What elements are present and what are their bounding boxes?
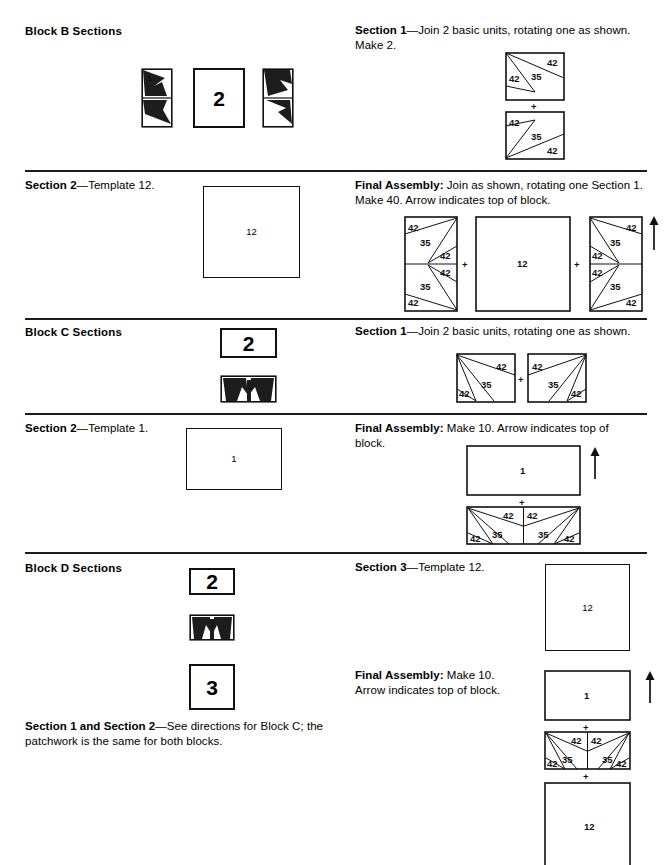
block-b-section1-text: Section 1—Join 2 basic units, rotating o… bbox=[355, 23, 645, 52]
block-d-swatch-pieced: 1 bbox=[189, 614, 235, 641]
block-c-swatch-pieced: 1 bbox=[220, 375, 277, 403]
svg-text:+: + bbox=[574, 259, 580, 270]
block-b-section1-diagram: 42 35 42 + 42 35 42 bbox=[505, 52, 577, 160]
template-number: 2 bbox=[243, 333, 255, 354]
block-b-final-text: Final Assembly: Join as shown, rotating … bbox=[355, 178, 647, 207]
svg-text:35: 35 bbox=[548, 379, 559, 390]
svg-text:42: 42 bbox=[592, 250, 603, 261]
svg-text:42: 42 bbox=[459, 388, 470, 399]
section-divider-3 bbox=[25, 413, 647, 415]
svg-text:35: 35 bbox=[492, 529, 503, 540]
block-c-final-assembly-diagram: 1 + 42 42 35 35 42 42 bbox=[432, 445, 612, 545]
svg-text:42: 42 bbox=[571, 388, 582, 399]
svg-text:35: 35 bbox=[420, 237, 431, 248]
template-number: 12 bbox=[582, 603, 593, 613]
block-c-section1-diagram: 42 35 42 + 42 35 42 bbox=[456, 353, 588, 405]
svg-text:42: 42 bbox=[547, 57, 558, 68]
svg-text:42: 42 bbox=[408, 297, 419, 308]
block-c-section2-template: 1 bbox=[186, 428, 282, 490]
svg-text:1: 1 bbox=[584, 690, 590, 701]
svg-text:42: 42 bbox=[496, 361, 507, 372]
svg-text:42: 42 bbox=[440, 267, 451, 278]
swatch-label-1: 1 bbox=[210, 619, 215, 629]
block-b-section2-label: Section 2 bbox=[25, 179, 77, 191]
template-number: 2 bbox=[206, 571, 218, 592]
template-number: 3 bbox=[206, 677, 218, 698]
block-c-heading: Block C Sections bbox=[25, 326, 122, 338]
block-c-section1-body: —Join 2 basic units, rotating one as sho… bbox=[407, 325, 631, 337]
block-b-final-assembly-diagram: 42 35 42 42 35 42 + 12 + 42 35 42 42 35 … bbox=[404, 216, 660, 312]
svg-text:35: 35 bbox=[562, 754, 573, 765]
svg-text:35: 35 bbox=[531, 71, 542, 82]
block-d-final-assembly-diagram: 1 + 42 42 35 35 42 42 + 12 bbox=[540, 670, 668, 865]
svg-text:+: + bbox=[518, 374, 524, 385]
up-arrow-icon bbox=[591, 447, 600, 479]
template-number: 12 bbox=[246, 227, 257, 237]
block-c-final-label: Final Assembly: bbox=[355, 422, 444, 434]
svg-text:42: 42 bbox=[626, 297, 637, 308]
svg-text:+: + bbox=[583, 771, 589, 782]
svg-text:1: 1 bbox=[520, 465, 526, 476]
template-number: 1 bbox=[231, 454, 236, 464]
svg-text:42: 42 bbox=[616, 758, 627, 769]
block-d-final-text: Final Assembly: Make 10. Arrow indicates… bbox=[355, 668, 505, 697]
svg-text:42: 42 bbox=[503, 510, 514, 521]
swatch-label-1: 1 bbox=[247, 381, 252, 391]
block-d-section3-template: 12 bbox=[545, 564, 630, 651]
svg-text:35: 35 bbox=[531, 131, 542, 142]
svg-text:42: 42 bbox=[509, 73, 520, 84]
block-c-swatch-template-2: 2 bbox=[220, 328, 277, 358]
block-b-section2-template: 12 bbox=[203, 186, 300, 278]
svg-text:42: 42 bbox=[509, 117, 520, 128]
svg-text:35: 35 bbox=[481, 379, 492, 390]
svg-text:+: + bbox=[462, 259, 468, 270]
block-d-note-text: Section 1 and Section 2—See directions f… bbox=[25, 719, 345, 748]
block-d-section3-label: Section 3 bbox=[355, 561, 407, 573]
svg-text:35: 35 bbox=[538, 529, 549, 540]
svg-text:35: 35 bbox=[610, 281, 621, 292]
svg-text:35: 35 bbox=[602, 754, 613, 765]
block-b-section1-label: Section 1 bbox=[355, 24, 407, 36]
section-divider-2 bbox=[25, 318, 647, 320]
section-divider-1 bbox=[25, 170, 647, 172]
block-b-swatch-pieced-right bbox=[262, 68, 294, 128]
block-c-section2-body: —Template 1. bbox=[77, 422, 149, 434]
block-d-swatch-template-3: 3 bbox=[189, 664, 235, 710]
block-b-final-label: Final Assembly: bbox=[355, 179, 444, 191]
block-d-heading: Block D Sections bbox=[25, 562, 122, 574]
block-c-section1-label: Section 1 bbox=[355, 325, 407, 337]
svg-text:42: 42 bbox=[527, 510, 538, 521]
svg-text:42: 42 bbox=[440, 250, 451, 261]
swatch-label-1: 1 bbox=[147, 73, 152, 83]
block-d-final-label: Final Assembly: bbox=[355, 669, 444, 681]
up-arrow-icon bbox=[650, 216, 659, 250]
svg-text:42: 42 bbox=[591, 735, 602, 746]
svg-text:42: 42 bbox=[626, 222, 637, 233]
section-divider-4 bbox=[25, 552, 647, 554]
block-b-heading: Block B Sections bbox=[25, 25, 122, 37]
svg-text:35: 35 bbox=[610, 237, 621, 248]
block-b-swatch-template-2: 2 bbox=[193, 68, 245, 128]
block-c-section1-text: Section 1—Join 2 basic units, rotating o… bbox=[355, 324, 645, 339]
svg-text:42: 42 bbox=[547, 758, 558, 769]
svg-text:42: 42 bbox=[571, 735, 582, 746]
block-b-swatch-pieced-left: 1 bbox=[141, 68, 173, 128]
svg-text:42: 42 bbox=[532, 361, 543, 372]
block-d-note-label: Section 1 and Section 2 bbox=[25, 720, 155, 732]
block-b-section2-body: —Template 12. bbox=[77, 179, 155, 191]
block-d-section3-body: —Template 12. bbox=[407, 561, 485, 573]
svg-text:+: + bbox=[531, 101, 537, 112]
svg-text:42: 42 bbox=[408, 222, 419, 233]
template-number: 2 bbox=[213, 88, 225, 109]
svg-text:42: 42 bbox=[547, 145, 558, 156]
svg-text:12: 12 bbox=[584, 821, 595, 832]
svg-text:42: 42 bbox=[470, 533, 481, 544]
svg-text:12: 12 bbox=[517, 258, 528, 269]
block-d-swatch-template-2: 2 bbox=[189, 568, 235, 595]
svg-text:35: 35 bbox=[420, 281, 431, 292]
svg-text:42: 42 bbox=[592, 267, 603, 278]
block-c-section2-label: Section 2 bbox=[25, 422, 77, 434]
svg-text:42: 42 bbox=[564, 533, 575, 544]
up-arrow-icon bbox=[646, 671, 655, 703]
